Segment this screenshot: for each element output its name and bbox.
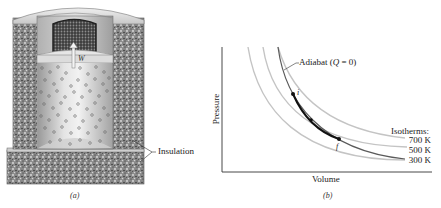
panel-a-cylinder [7,8,156,184]
y-axis-label: Pressure [211,89,221,129]
isotherm-label-500k: 500 K [391,145,431,155]
adiabat-text: Adiabat ( [299,57,333,67]
panel-a-caption: (a) [70,191,79,200]
insulation-label: Insulation [158,147,194,156]
work-label: W [78,55,85,63]
base-slab [7,150,144,184]
x-axis-label: Volume [312,175,340,184]
isotherm-label-700k: 700 K [391,135,431,145]
isotherm-label-300k: 300 K [391,155,431,165]
point-f-label: f [336,143,338,151]
midpoint-arrow-marker [309,118,313,122]
point-f-marker [337,137,341,141]
adiabat-eq: = 0) [339,57,356,67]
adiabat-label: Adiabat (Q = 0) [299,58,356,67]
point-i-marker [291,92,295,96]
point-i-label: i [297,89,299,97]
panel-b-caption: (b) [323,191,332,200]
gas-chamber [38,63,112,148]
